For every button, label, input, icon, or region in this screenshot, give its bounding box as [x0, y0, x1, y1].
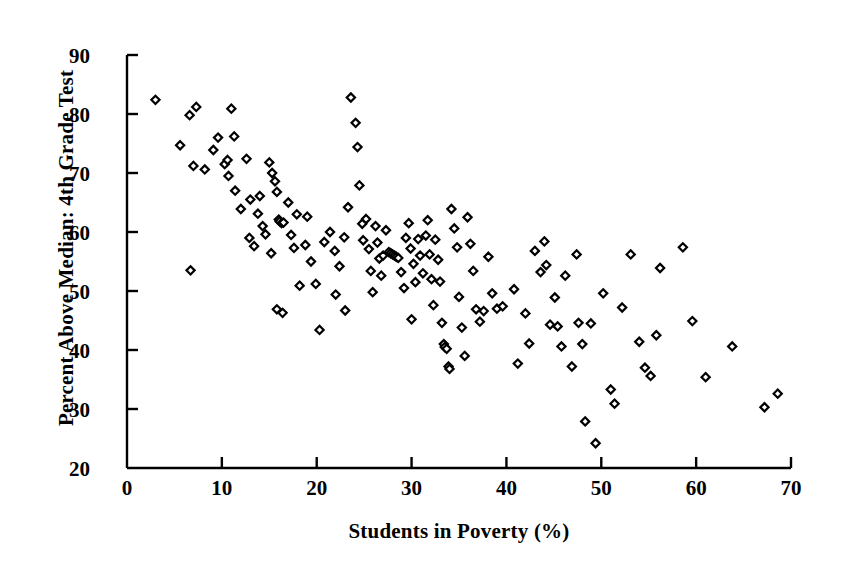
data-point: [186, 266, 194, 274]
data-point: [231, 187, 239, 195]
data-point: [256, 192, 264, 200]
data-point: [525, 339, 533, 347]
data-point: [405, 219, 413, 227]
data-point: [521, 309, 529, 317]
data-point: [469, 267, 477, 275]
data-point: [352, 119, 360, 127]
data-point: [409, 260, 417, 268]
data-point: [186, 111, 194, 119]
x-tick-label: 0: [107, 476, 147, 501]
data-point: [400, 284, 408, 292]
data-point: [307, 257, 315, 265]
scatter-chart-figure: Percent Above Median: 4th Grade Test Stu…: [0, 0, 845, 582]
data-point: [702, 373, 710, 381]
data-point: [284, 198, 292, 206]
data-point: [573, 250, 581, 258]
data-point: [176, 141, 184, 149]
data-point: [355, 181, 363, 189]
data-point: [728, 342, 736, 350]
data-point: [641, 364, 649, 372]
data-point: [242, 155, 250, 163]
y-tick-label: 50: [48, 280, 90, 305]
data-point: [189, 162, 197, 170]
data-point: [265, 158, 273, 166]
axis-tick-marks: [127, 114, 696, 468]
data-point: [578, 340, 586, 348]
data-point: [151, 96, 159, 104]
data-point: [214, 134, 222, 142]
data-point: [201, 165, 209, 173]
data-point: [599, 289, 607, 297]
y-tick-label: 70: [48, 162, 90, 187]
data-point: [429, 301, 437, 309]
data-point: [237, 205, 245, 213]
data-point: [656, 264, 664, 272]
data-point-group: [151, 93, 781, 447]
data-point: [273, 188, 281, 196]
data-point: [647, 372, 655, 380]
data-point: [587, 319, 595, 327]
y-tick-label: 90: [48, 44, 90, 69]
x-tick-label: 70: [771, 476, 811, 501]
data-point: [296, 282, 304, 290]
data-point: [458, 323, 466, 331]
x-tick-label: 40: [486, 476, 526, 501]
data-point: [461, 352, 469, 360]
data-point: [246, 195, 254, 203]
data-point: [431, 236, 439, 244]
data-point: [353, 143, 361, 151]
data-point: [760, 403, 768, 411]
data-point: [679, 243, 687, 251]
data-point: [540, 237, 548, 245]
data-point: [245, 234, 253, 242]
data-point: [581, 417, 589, 425]
data-point: [224, 172, 232, 180]
x-axis-title: Students in Poverty (%): [127, 519, 791, 544]
data-point: [419, 269, 427, 277]
x-tick-label: 60: [676, 476, 716, 501]
data-point: [230, 132, 238, 140]
data-point: [607, 385, 615, 393]
data-point: [774, 390, 782, 398]
y-tick-label: 60: [48, 221, 90, 246]
data-point: [303, 213, 311, 221]
x-tick-label: 20: [297, 476, 337, 501]
data-point: [536, 268, 544, 276]
data-point: [635, 338, 643, 346]
data-point: [546, 321, 554, 329]
data-point: [438, 319, 446, 327]
data-point: [472, 305, 480, 313]
data-point: [365, 245, 373, 253]
data-point: [436, 277, 444, 285]
data-point: [320, 238, 328, 246]
data-point: [447, 205, 455, 213]
data-point: [287, 231, 295, 239]
data-point: [315, 326, 323, 334]
y-tick-label: 40: [48, 339, 90, 364]
data-point: [254, 210, 262, 218]
data-point: [367, 267, 375, 275]
data-point: [557, 342, 565, 350]
data-point: [574, 319, 582, 327]
data-point: [488, 289, 496, 297]
data-point: [652, 331, 660, 339]
data-point: [453, 243, 461, 251]
x-tick-label: 50: [581, 476, 621, 501]
data-point: [332, 290, 340, 298]
data-point: [290, 244, 298, 252]
data-point: [591, 439, 599, 447]
data-point: [209, 146, 217, 154]
data-point: [554, 322, 562, 330]
data-point: [561, 272, 569, 280]
data-point: [335, 262, 343, 270]
data-point: [610, 400, 618, 408]
data-point: [568, 362, 576, 370]
data-point: [331, 247, 339, 255]
x-axis-tick-labels: 010203040506070: [0, 476, 845, 506]
data-point: [371, 222, 379, 230]
y-tick-label: 80: [48, 103, 90, 128]
data-point: [551, 293, 559, 301]
data-point: [463, 213, 471, 221]
x-tick-label: 10: [202, 476, 242, 501]
data-point: [407, 315, 415, 323]
